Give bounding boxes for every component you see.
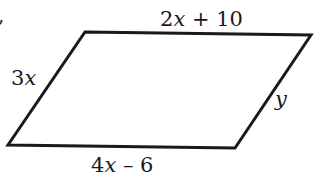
top-side-rest: + 10 <box>185 7 243 31</box>
right-side-var: y <box>274 87 288 111</box>
left-side-label: 3x <box>11 66 36 90</box>
bottom-side-coef: 4 <box>91 153 104 177</box>
top-side-label: 2x + 10 <box>160 7 243 31</box>
bottom-side-rest: – 6 <box>116 153 153 177</box>
comma-fragment: , <box>0 3 4 27</box>
top-side-var: x <box>173 7 185 31</box>
top-side-coef: 2 <box>160 7 173 31</box>
parallelogram-shape <box>8 32 311 148</box>
parallelogram-diagram: , 2x + 10 3x y 4x – 6 <box>0 0 322 181</box>
left-side-var: x <box>24 66 36 90</box>
bottom-side-label: 4x – 6 <box>91 153 153 177</box>
left-side-coef: 3 <box>11 66 24 90</box>
bottom-side-var: x <box>104 153 116 177</box>
right-side-label: y <box>274 87 288 111</box>
